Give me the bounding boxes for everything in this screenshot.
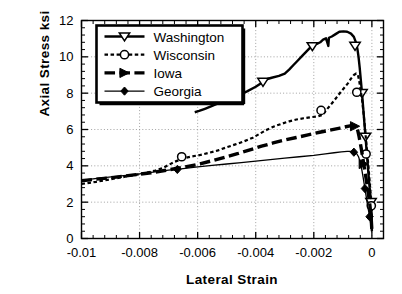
x-tick-label: -0.01 — [67, 245, 97, 260]
series-marker — [178, 153, 186, 161]
y-tick-label: 0 — [66, 231, 73, 246]
series-marker — [120, 51, 128, 59]
legend-label: Iowa — [154, 66, 183, 81]
chart-figure: -0.01-0.008-0.006-0.004-0.0020024681012 … — [0, 0, 402, 294]
y-tick-label: 6 — [66, 122, 73, 137]
legend-label: Georgia — [154, 84, 203, 99]
chart-plot-area: -0.01-0.008-0.006-0.004-0.0020024681012 … — [0, 0, 402, 294]
legend-label: Washington — [154, 30, 225, 45]
legend[interactable]: WashingtonWisconsinIowaGeorgia — [97, 26, 245, 105]
x-tick-label: 0 — [368, 245, 375, 260]
series-marker — [353, 88, 361, 96]
series-marker — [317, 106, 325, 114]
legend-label: Wisconsin — [154, 48, 216, 63]
x-tick-label: -0.004 — [237, 245, 274, 260]
x-tick-label: -0.006 — [179, 245, 216, 260]
x-tick-label: -0.008 — [121, 245, 158, 260]
y-tick-label: 12 — [59, 13, 73, 28]
series-marker — [350, 42, 360, 50]
y-tick-label: 2 — [66, 195, 73, 210]
series-marker — [350, 148, 357, 156]
y-tick-label: 8 — [66, 86, 73, 101]
y-tick-label: 4 — [66, 158, 73, 173]
x-axis-title: Lateral Strain — [81, 272, 383, 287]
y-axis-title: Axial Stress ksi — [37, 0, 52, 154]
x-tick-label: -0.002 — [295, 245, 332, 260]
series-georgia — [82, 148, 374, 232]
y-tick-label: 10 — [59, 49, 73, 64]
